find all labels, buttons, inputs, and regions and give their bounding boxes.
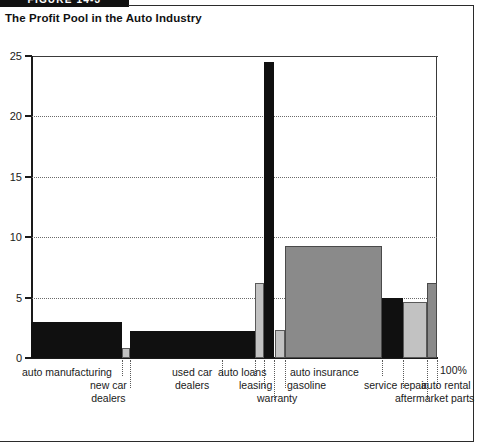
y-tick-label-10: 10 (10, 231, 22, 243)
x-label-auto-loans: auto loans (218, 366, 266, 379)
x-label-line-2: dealers (172, 379, 212, 392)
bar-warranty (264, 62, 274, 358)
y-tick-label-5: 5 (16, 292, 22, 304)
chart-title: The Profit Pool in the Auto Industry (5, 12, 202, 24)
leader-auto-manufacturing (122, 360, 123, 376)
bar-auto-rental (427, 283, 437, 358)
leader-gasoline (285, 360, 286, 388)
y-tick-mark-25 (25, 55, 32, 57)
x-label-gasoline: gasoline (287, 379, 326, 392)
x-label-auto-rental: auto rental (421, 379, 471, 392)
bar-auto-loans (222, 331, 255, 358)
x-label-leasing: leasing (239, 379, 272, 392)
gridline-15 (31, 177, 437, 178)
gridline-10 (31, 237, 437, 238)
figure-page: FIGURE 14-3 The Profit Pool in the Auto … (0, 0, 477, 444)
figure-number-tab: FIGURE 14-3 (0, 0, 129, 7)
x-label-warranty: warranty (257, 392, 297, 405)
x-label-used-car-dealers: used cardealers (172, 366, 212, 391)
bar-new-car-dealers (122, 348, 130, 358)
bar-leasing (255, 283, 264, 358)
y-tick-label-20: 20 (10, 110, 22, 122)
x-label-line-2: dealers (90, 392, 127, 405)
bar-auto-manufacturing (31, 322, 122, 358)
x-label-service-repair: service repair (364, 379, 427, 392)
plot-area: 0510152025 (31, 56, 437, 358)
x-label-new-car-dealers: new cardealers (90, 379, 127, 404)
x-label-auto-insurance: auto insurance (290, 366, 359, 379)
y-tick-mark-20 (25, 115, 32, 117)
leader-auto-insurance (382, 360, 383, 376)
x-label-aftermarket-parts: aftermarket parts (395, 392, 474, 405)
page-border-bottom (0, 441, 474, 442)
y-tick-mark-10 (25, 236, 32, 238)
bar-gasoline (275, 330, 285, 358)
page-border-top (128, 5, 474, 6)
bar-used-car-dealers (130, 331, 222, 358)
y-tick-mark-5 (25, 297, 32, 299)
bar-service-repair (382, 298, 403, 358)
page-border-right (473, 5, 474, 441)
x-label-auto-manufacturing: auto manufacturing (22, 366, 112, 379)
plot-frame-top (31, 56, 438, 57)
gridline-20 (31, 116, 437, 117)
bar-auto-insurance (285, 246, 382, 358)
y-axis-line (31, 56, 33, 359)
x-label-line-1: new car (90, 379, 127, 392)
y-tick-label-0: 0 (16, 352, 22, 364)
y-tick-mark-15 (25, 176, 32, 178)
y-tick-label-15: 15 (10, 171, 22, 183)
y-tick-label-25: 25 (10, 50, 22, 62)
leader-new-car-dealers (130, 360, 131, 388)
x-axis-100-percent-label: 100% (440, 364, 467, 376)
bar-aftermarket-parts (403, 302, 427, 358)
x-label-line-1: used car (172, 366, 212, 379)
